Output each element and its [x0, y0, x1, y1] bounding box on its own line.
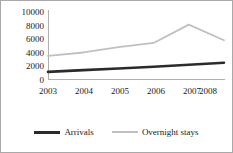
legend-label-arrivals: Arrivals — [64, 127, 94, 137]
legend-item-arrivals: Arrivals — [34, 127, 94, 137]
x-axis-tick-label: 2005 — [103, 87, 137, 96]
legend-swatch-arrivals-icon — [34, 131, 60, 134]
x-axis-tick-label: 2004 — [67, 87, 101, 96]
series-lines — [48, 11, 224, 79]
y-axis-tick-label: 6000 — [5, 35, 44, 44]
x-axis-line — [48, 79, 225, 80]
y-axis-tick-label: 4000 — [5, 49, 44, 58]
x-axis-tick-label: 2006 — [139, 87, 173, 96]
series-line-arrivals — [48, 63, 224, 72]
legend-swatch-overnight-stays-icon — [112, 131, 138, 133]
y-axis-tick-label: 8000 — [5, 22, 44, 31]
chart-legend: Arrivals Overnight stays — [1, 127, 232, 137]
line-chart: 10000 8000 6000 4000 2000 0 2003 2004 20… — [0, 0, 233, 153]
x-axis-tick-label: 2003 — [31, 87, 65, 96]
legend-label-overnight-stays: Overnight stays — [142, 127, 199, 137]
y-axis-tick-label: 2000 — [5, 62, 44, 71]
legend-item-overnight-stays: Overnight stays — [112, 127, 199, 137]
y-axis-tick-label: 0 — [5, 76, 44, 85]
y-axis-tick-label: 10000 — [5, 8, 44, 17]
plot-area — [48, 11, 224, 79]
x-axis-tick-label: 2008 — [191, 87, 225, 96]
series-line-overnight-stays — [48, 25, 224, 56]
